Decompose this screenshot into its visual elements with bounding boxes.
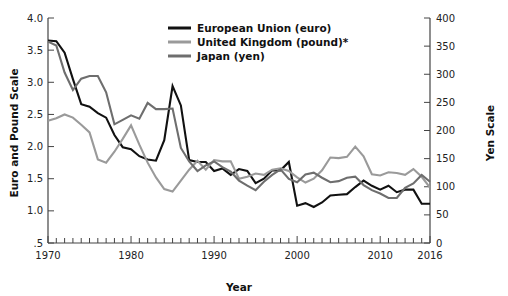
y-axis-left-tick-label: 2.0 xyxy=(27,141,43,152)
y-axis-right-title: Yen Scale xyxy=(484,105,496,162)
y-axis-left-tick-label: 3.5 xyxy=(27,45,43,56)
y-axis-left-tick-label: 2.5 xyxy=(27,109,43,120)
x-axis-tick-label: 1980 xyxy=(118,250,143,261)
legend-label: Japan (yen) xyxy=(196,50,265,62)
legend-label: United Kingdom (pound)* xyxy=(197,36,349,48)
y-axis-right-tick-label: 400 xyxy=(436,13,455,24)
x-axis-title: Year xyxy=(225,281,253,293)
y-axis-right-tick-label: 50 xyxy=(436,209,449,220)
legend-label: European Union (euro) xyxy=(197,22,331,34)
y-axis-left-tick-label: 3.0 xyxy=(27,77,43,88)
currency-exchange-rate-chart: 197019801990200020102016 .51.01.52.02.53… xyxy=(0,0,508,296)
y-axis-left-tick-label: .5 xyxy=(33,238,43,249)
y-axis-left-tick-label: 4.0 xyxy=(27,13,43,24)
y-axis-right-tick-label: 300 xyxy=(436,69,455,80)
y-axis-left-tick-label: 1.5 xyxy=(27,173,43,184)
x-axis-tick-label: 1970 xyxy=(35,250,60,261)
y-axis-right-tick-label: 0 xyxy=(436,238,442,249)
x-axis-tick-label: 1990 xyxy=(201,250,226,261)
y-axis-right-tick-label: 350 xyxy=(436,41,455,52)
x-axis-tick-label: 2000 xyxy=(284,250,309,261)
chart-canvas: 197019801990200020102016 .51.01.52.02.53… xyxy=(0,0,508,296)
x-axis-tick-label: 2010 xyxy=(367,250,392,261)
y-axis-left-title: Euro and Pound Scale xyxy=(8,68,20,197)
x-axis-tick-label: 2016 xyxy=(417,250,442,261)
y-axis-right-tick-label: 200 xyxy=(436,125,455,136)
y-axis-right-tick-label: 250 xyxy=(436,97,455,108)
y-axis-left-tick-label: 1.0 xyxy=(27,205,43,216)
y-axis-right-tick-label: 100 xyxy=(436,181,455,192)
y-axis-right-tick-label: 150 xyxy=(436,153,455,164)
